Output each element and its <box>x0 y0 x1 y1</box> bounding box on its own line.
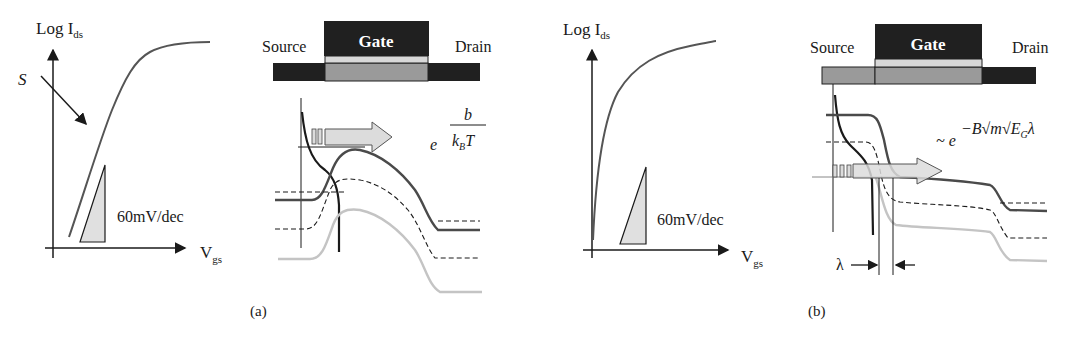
slope-arrow <box>41 76 86 124</box>
source-region <box>822 67 875 84</box>
conduction-band <box>275 150 480 230</box>
gate-label: Gate <box>911 35 946 54</box>
slope-triangle-label: 60mV/dec <box>117 208 184 225</box>
drain-region <box>428 63 480 81</box>
arrow-tail-segment <box>840 165 844 177</box>
caption-a: (a) <box>250 303 267 320</box>
slope-triangle-label: 60mV/dec <box>657 211 724 228</box>
gate-oxide <box>325 56 428 63</box>
panel-a-iv-plot: Log Ids Vgs S 60mV/dec <box>18 19 222 265</box>
valence-band <box>876 178 1047 261</box>
arrow-tail-segment <box>312 129 316 144</box>
formula-prefix: ~ e <box>936 132 956 149</box>
intrinsic-level <box>826 142 1047 238</box>
source-label: Source <box>262 38 306 55</box>
formula-exponent: −B√m√EGλ <box>961 120 1035 140</box>
arrow-tail-segment <box>833 165 837 177</box>
formula-denominator: kBT <box>452 132 475 152</box>
channel-region <box>875 67 982 84</box>
x-axis-label: Vgs <box>200 243 222 265</box>
slope-triangle <box>80 165 105 242</box>
slope-label: S <box>18 70 27 89</box>
drain-label: Drain <box>455 38 491 55</box>
figure-canvas: Log Ids Vgs S 60mV/dec Source Drain Gate <box>0 0 1087 341</box>
panel-b-iv-plot: Log Ids Vgs 60mV/dec <box>563 20 763 269</box>
slope-triangle <box>620 167 646 244</box>
drain-label: Drain <box>1012 39 1048 56</box>
source-region <box>273 63 325 81</box>
gate-oxide <box>875 59 982 67</box>
panel-a-band-diagram: e b kBT <box>275 98 486 292</box>
x-axis-label: Vgs <box>741 247 763 269</box>
panel-a-device: Source Drain Gate <box>262 21 491 81</box>
tunnel-width-label: λ <box>836 256 844 273</box>
arrow-tail-segment <box>318 129 322 144</box>
gate-label: Gate <box>359 32 394 51</box>
y-axis-label: Log Ids <box>563 20 610 41</box>
intrinsic-level <box>275 179 480 258</box>
source-label: Source <box>810 39 854 56</box>
caption-b: (b) <box>808 303 826 320</box>
valence-band <box>278 210 482 292</box>
y-axis-label: Log Ids <box>36 19 83 40</box>
panel-b-device: Source Drain Gate <box>810 24 1048 84</box>
panel-b-band-diagram: λ ~ e −B√m√EGλ <box>812 84 1047 275</box>
formula-base: e <box>430 136 437 153</box>
channel-region <box>325 63 428 81</box>
arrow-tail-segment <box>847 165 851 177</box>
drain-region <box>982 67 1036 84</box>
formula-numerator: b <box>464 106 472 123</box>
